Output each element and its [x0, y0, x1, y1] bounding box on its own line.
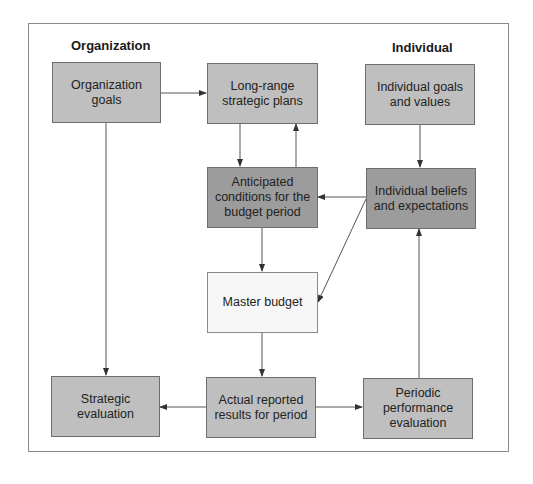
node-individual-beliefs-and-expectations: Individual beliefs and expectations [366, 168, 476, 229]
node-long-range-strategic-plans: Long-range strategic plans [207, 63, 318, 124]
node-periodic-performance-evaluation: Periodic performance evaluation [363, 378, 473, 439]
node-anticipated-conditions: Anticipated conditions for the budget pe… [207, 167, 318, 228]
node-actual-reported-results: Actual reported results for period [206, 377, 316, 438]
node-strategic-evaluation: Strategic evaluation [51, 376, 160, 437]
node-master-budget: Master budget [207, 272, 318, 333]
node-individual-goals-and-values: Individual goals and values [365, 64, 475, 125]
organization-column-header: Organization [71, 38, 150, 53]
individual-column-header: Individual [392, 40, 453, 55]
node-organization-goals: Organization goals [52, 62, 161, 123]
